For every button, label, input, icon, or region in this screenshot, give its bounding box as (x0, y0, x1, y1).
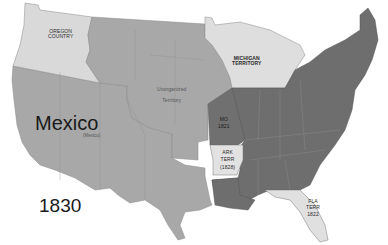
label-mexico-small: (Mexico) (83, 134, 100, 139)
label-line: ARK (220, 150, 235, 155)
label-line: COUNTRY (48, 34, 73, 39)
label-michigan-territory: MICHIGAN TERRITORY (232, 56, 262, 67)
label-unorganized-territory: Unorganized Territory (157, 87, 186, 104)
label-florida-territory: FLA TERR 1822 (306, 199, 320, 217)
label-line: 1822 (306, 212, 320, 217)
label-oregon-country: OREGON COUNTRY (48, 29, 73, 40)
label-line: TERRITORY (232, 61, 262, 66)
label-mexico: Mexico (35, 113, 98, 134)
label-line: (1828) (220, 165, 235, 170)
label-arkansas-territory: ARK TERR (1828) (220, 150, 235, 170)
label-line: TERR (306, 205, 320, 210)
label-line: Territory (157, 98, 186, 103)
label-line: TERR (220, 157, 235, 162)
label-line: MO (218, 117, 230, 122)
label-line: 1821 (218, 124, 230, 129)
label-line: Unorganized (157, 87, 186, 92)
label-missouri: MO 1821 (218, 117, 230, 130)
map-year-label: 1830 (39, 196, 81, 216)
